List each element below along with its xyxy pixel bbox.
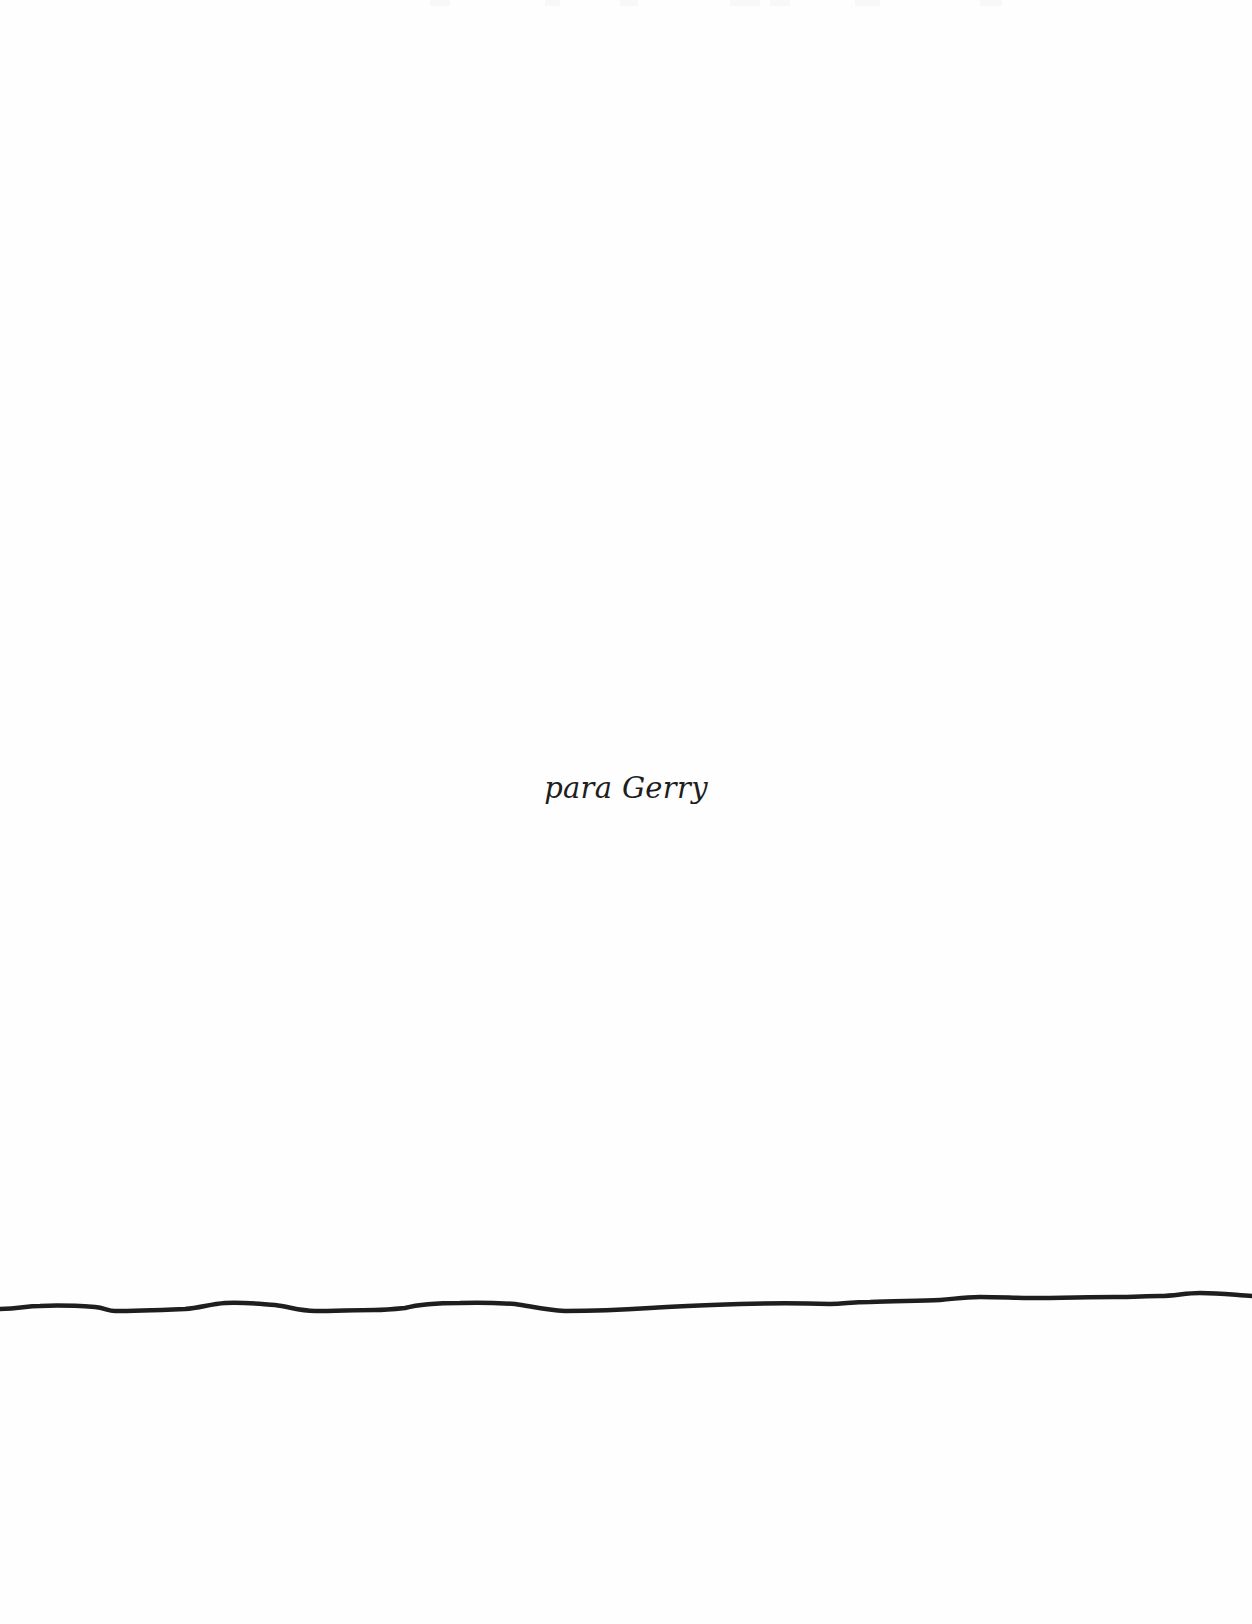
- dedication-text: para Gerry: [0, 768, 1252, 808]
- bleed-through-mark: [770, 0, 790, 6]
- wavy-divider-line: [0, 1270, 1252, 1340]
- bleed-through-mark: [545, 0, 560, 6]
- bleed-through-mark: [980, 0, 1002, 6]
- bleed-through-mark: [620, 0, 638, 6]
- bleed-through-mark: [730, 0, 760, 6]
- document-page: para Gerry: [0, 0, 1252, 1624]
- bleed-through-mark: [855, 0, 880, 6]
- bleed-through-mark: [430, 0, 450, 6]
